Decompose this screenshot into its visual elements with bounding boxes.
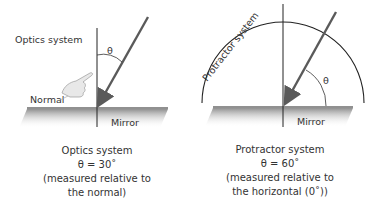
theta-label: θ <box>323 75 329 86</box>
caption-note: (measured relative to <box>22 172 172 186</box>
mirror-label: Mirror <box>297 116 325 127</box>
optics-system-diagram: θ Optics system Normal Mirror <box>15 17 168 128</box>
caption-title: Protractor system <box>205 143 355 157</box>
pointing-hand-icon <box>60 73 93 100</box>
caption-title: Optics system <box>22 144 172 158</box>
caption-note-2: the normal) <box>22 186 172 200</box>
optics-caption: Optics system θ = 30˚ (measured relative… <box>22 144 172 200</box>
optics-system-label: Optics system <box>15 34 82 45</box>
caption-note: (measured relative to <box>205 171 355 185</box>
caption-note-2: the horizontal (0˚)) <box>205 185 355 199</box>
protractor-caption: Protractor system θ = 60˚ (measured rela… <box>205 143 355 199</box>
normal-label: Normal <box>30 94 64 105</box>
incident-ray <box>99 17 148 104</box>
protractor-system-label: Protractor system <box>200 10 261 83</box>
protractor-system-diagram: θ Protractor system Mirror <box>200 4 364 127</box>
mirror-label: Mirror <box>111 117 139 128</box>
caption-angle: θ = 60˚ <box>205 157 355 171</box>
incident-ray <box>286 12 336 102</box>
caption-angle: θ = 30˚ <box>22 158 172 172</box>
mirror-surface <box>19 109 168 128</box>
theta-label: θ <box>107 45 113 56</box>
mirror-surface <box>205 108 353 127</box>
